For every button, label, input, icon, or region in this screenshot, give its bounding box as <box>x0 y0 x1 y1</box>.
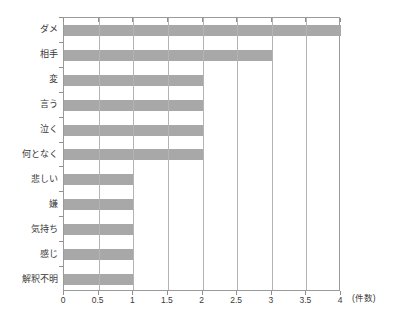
y-axis-tick <box>59 142 63 143</box>
x-axis-tick-top <box>236 18 237 22</box>
bar-row <box>64 242 339 267</box>
y-axis-tick <box>59 191 63 192</box>
y-axis-category-label: 解釈不明 <box>22 273 58 284</box>
bar <box>64 100 203 111</box>
x-axis-tick-top <box>305 18 306 22</box>
x-axis-tick-top <box>132 18 133 22</box>
y-axis-tick <box>59 266 63 267</box>
x-axis-unit-label: (件数) <box>352 293 376 304</box>
bar <box>64 224 133 235</box>
bar <box>64 50 272 61</box>
bar-row <box>64 217 339 242</box>
y-axis-tick <box>59 42 63 43</box>
bar-row <box>64 267 339 292</box>
bar <box>64 25 341 36</box>
y-axis-category-label: 相手 <box>40 49 58 60</box>
bar-row <box>64 118 339 143</box>
bar-row <box>64 143 339 168</box>
bar-row <box>64 93 339 118</box>
bar-row <box>64 68 339 93</box>
plot-area <box>63 17 340 291</box>
y-axis-category-label: 気持ち <box>31 223 58 234</box>
y-axis-tick <box>59 241 63 242</box>
bar <box>64 249 133 260</box>
bar-row <box>64 192 339 217</box>
y-axis-tick <box>59 17 63 18</box>
x-axis-tick-top <box>167 18 168 22</box>
y-axis-category-label: ダメ <box>40 24 58 35</box>
y-axis-category-label: 悲しい <box>31 173 58 184</box>
x-axis-tick-label: 0.5 <box>92 295 104 305</box>
bar <box>64 125 203 136</box>
y-axis-tick <box>59 67 63 68</box>
y-axis-category-label: 何となく <box>22 149 58 160</box>
bars-layer <box>64 18 339 290</box>
bar <box>64 75 203 86</box>
x-axis-tick-top <box>202 18 203 22</box>
x-axis-tick-top <box>271 18 272 22</box>
bar-row <box>64 167 339 192</box>
bar <box>64 174 133 185</box>
x-axis-tick-label: 2.5 <box>230 295 242 305</box>
x-axis-tick-top <box>340 18 341 22</box>
y-axis-tick <box>59 166 63 167</box>
x-axis-tick-top <box>63 18 64 22</box>
y-axis-tick <box>59 117 63 118</box>
bar-row <box>64 43 339 68</box>
x-axis-tick-top <box>98 18 99 22</box>
x-axis-tick-label: 1 <box>130 295 135 305</box>
x-axis-tick-label: 4 <box>338 295 343 305</box>
x-axis-tick-label: 2 <box>199 295 204 305</box>
y-axis-category-label: 変 <box>49 74 58 85</box>
bar-chart: 00.511.522.533.54 ダメ相手変言う泣く何となく悲しい嫌気持ち感じ… <box>0 0 399 315</box>
x-axis-tick-label: 1.5 <box>161 295 173 305</box>
x-axis-tick-label: 3.5 <box>299 295 311 305</box>
x-axis-tick-label: 0 <box>61 295 66 305</box>
y-axis-tick <box>59 92 63 93</box>
x-axis-tick-label: 3 <box>268 295 273 305</box>
bar <box>64 149 203 160</box>
y-axis-category-label: 泣く <box>40 124 58 135</box>
bar <box>64 274 133 285</box>
y-axis-category-label: 嫌 <box>49 198 58 209</box>
y-axis-tick <box>59 216 63 217</box>
y-axis-category-label: 言う <box>40 99 58 110</box>
y-axis-category-label: 感じ <box>40 248 58 259</box>
bar <box>64 199 133 210</box>
